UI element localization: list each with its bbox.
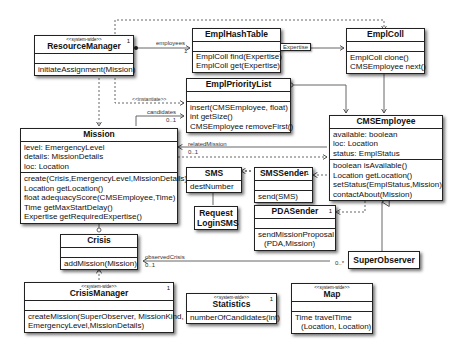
operation: sendMissionProposal [258,230,332,240]
class-name: EmplHashTable [193,29,280,41]
class-name: ResourceManager [47,41,121,51]
operation: int getSize() [190,112,287,122]
mult-super-observer: 0..* [335,260,344,266]
operation: insert(CMSEmployee, float) [190,103,287,113]
mult-employees: 1 [184,48,187,54]
operation-cont: (Location, Location) [295,322,369,332]
class-name: Statistics [213,299,251,309]
class-map[interactable]: <<system-wide>>Map Time travelTime(Locat… [291,283,373,334]
multiplicity: 1 [329,207,332,217]
role-employees: employees [156,40,185,46]
operation: Time travelTime [295,313,369,323]
attributes-section [292,301,372,311]
class-cms-employee[interactable]: CMSEmployee available: booleanloc: Locat… [329,115,443,201]
attributes-section [193,41,280,51]
role-observed-crisis: observedCrisis [145,254,185,260]
class-crisis[interactable]: Crisis addMission(Mission) [60,234,138,270]
operation: initiateAssignment(Mission) [35,63,133,76]
class-name: Crisis [61,235,137,247]
class-sms[interactable]: SMS destNumber [186,167,242,193]
attribute: available: boolean [333,130,439,140]
operation: Expertise getRequiredExpertise() [24,212,174,222]
class-name: SuperObserver [349,252,419,268]
operation: EmplColl clone() [350,53,421,63]
attributes-section [35,53,133,63]
class-super-observer[interactable]: SuperObserver [348,251,420,269]
qualifier-expertise: Expertise [280,43,311,51]
mult-related-mission: 0..1 [188,149,198,155]
attribute: loc: Location [24,162,174,172]
class-pda-sender[interactable]: PDASender1 sendMissionProposal(PDA,Missi… [254,205,336,251]
operation: numberOfCandidates(int) [187,311,276,324]
attribute: details: MissionDetails [24,152,174,162]
class-sms-sender[interactable]: SMSSender1 send(SMS) [254,167,313,203]
multiplicity: 1 [270,295,273,305]
class-name: Map [324,289,341,299]
class-name: SMS [187,168,241,180]
mult-candidates: 0..1 [166,117,176,123]
attributes-section [347,41,424,51]
multiplicity: 1 [127,37,130,47]
operation: send(SMS) [255,190,312,203]
attribute: status: EmplStatus [333,149,439,159]
class-empl-coll[interactable]: EmplColl EmplColl clone()CMSEmployee nex… [346,28,425,74]
class-crisis-manager[interactable]: <<system-wide>>CrisisManager1 createMiss… [24,282,174,333]
attribute: destNumber [187,180,241,193]
attributes-section [61,247,137,257]
operation: Time getMaxStartDelay() [24,203,174,213]
class-name-line2: LoginSMS [197,218,235,228]
role-instantiate: <<instantiate>> [132,96,166,102]
operation: boolean isAvailable() [333,161,439,171]
attribute: level: EmergencyLevel [24,143,174,153]
mult-observed-crisis: 0..1 [145,262,155,268]
operation: float adequacyScore(CMSEmployee,Time) [24,193,174,203]
class-name: SMSSender [260,168,307,178]
operation: EmplColl find(Expertise) [196,52,277,62]
attributes-section [255,180,312,190]
class-request-login-sms[interactable]: RequestLoginSMS [194,206,238,230]
class-empl-priority-list[interactable]: EmplPriorityList insert(CMSEmployee, flo… [186,78,291,133]
operation: addMission(Mission) [61,257,137,270]
operation: setStatus(EmplStatus,Mission) [333,180,439,190]
operation-cont: EmergencyLevel,MissionDetails) [28,321,170,331]
operation: CMSEmployee removeFirst() [190,122,287,132]
class-name: PDASender [272,206,319,216]
class-name-line1: Request [197,208,235,218]
attributes-section [25,300,173,310]
operation: create(Crisis,EmergencyLevel,MissionDeta… [24,174,174,184]
class-resource-manager[interactable]: <<system-wide>>ResourceManager1 initiate… [34,35,134,76]
role-candidates: candidates [147,109,176,115]
multiplicity: 1 [167,284,170,294]
operation: EmplColl get(Expertise) [196,61,277,71]
operation-cont: (PDA,Mission) [258,239,332,249]
class-empl-hash-table[interactable]: EmplHashTable EmplColl find(Expertise)Em… [192,28,281,73]
attribute: loc: Location [333,139,439,149]
class-name: CrisisManager [70,288,129,298]
class-name: EmplColl [347,29,424,41]
operation: Location getLocation() [24,184,174,194]
class-name: EmplPriorityList [187,79,290,91]
attributes-section [187,91,290,101]
operation: createMission(SuperObserver, MissionKind… [28,312,170,322]
class-statistics[interactable]: <<system-wide>>Statistics1 numberOfCandi… [186,293,277,324]
operation: CMSEmployee next() [350,62,421,72]
role-related-mission: relatedMission [188,141,227,147]
class-name: CMSEmployee [330,116,442,128]
operation: Location getLocation() [333,171,439,181]
class-name: Mission [21,129,177,141]
operation: contactAbout(Mission) [333,190,439,200]
multiplicity: 1 [306,169,309,179]
class-mission[interactable]: Mission level: EmergencyLeveldetails: Mi… [20,128,178,224]
attributes-section [255,218,335,228]
